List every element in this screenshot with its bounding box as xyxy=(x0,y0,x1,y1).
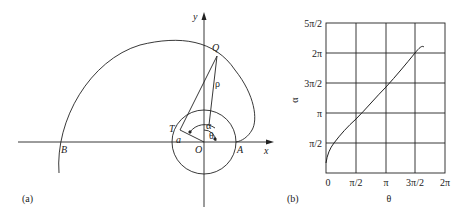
y-axis-title: α xyxy=(289,97,300,103)
ytick-pi2: π/2 xyxy=(309,138,322,149)
ytick-2pi: 2π xyxy=(312,48,322,59)
tangent-line xyxy=(180,56,217,130)
xtick-2pi: 2π xyxy=(440,177,450,188)
figure: y x Q T O A B ρ α θ a (a) 5π/2 2π 3π/2 π… xyxy=(0,0,468,212)
panel-a xyxy=(18,12,274,207)
theta-arc-dot xyxy=(214,138,216,140)
panel-b-label: (b) xyxy=(287,193,299,205)
ytick-5pi2: 5π/2 xyxy=(304,18,322,29)
theta-label: θ xyxy=(209,130,214,141)
y-axis-label: y xyxy=(192,11,198,22)
ytick-pi: π xyxy=(317,108,322,119)
xtick-3pi2: 3π/2 xyxy=(406,177,424,188)
involute-curve xyxy=(59,40,255,173)
alpha-arc-dot xyxy=(189,131,191,133)
panel-b-labels: 5π/2 2π 3π/2 π π/2 0 π/2 π 3π/2 2π θ α (… xyxy=(287,18,450,205)
ytick-3pi2: 3π/2 xyxy=(304,78,322,89)
point-O-label: O xyxy=(195,144,202,155)
point-A-label: A xyxy=(236,144,244,155)
alpha-theta-curve xyxy=(326,46,424,163)
panel-b-grid xyxy=(326,23,445,173)
x-axis-label: x xyxy=(263,145,269,156)
y-axis-arrow-icon xyxy=(202,12,207,20)
xtick-pi2: π/2 xyxy=(350,177,363,188)
point-Q-label: Q xyxy=(212,42,220,53)
rho-label: ρ xyxy=(215,78,220,89)
radius-OT xyxy=(180,130,204,142)
xtick-pi: π xyxy=(383,177,388,188)
panel-a-labels: y x Q T O A B ρ α θ a (a) xyxy=(22,11,269,205)
x-axis-title: θ xyxy=(387,193,392,204)
panel-a-label: (a) xyxy=(22,193,33,205)
point-B-label: B xyxy=(61,144,67,155)
radius-a-label: a xyxy=(176,134,181,145)
rho-line xyxy=(209,56,217,125)
x-axis-arrow-icon xyxy=(266,140,274,145)
plot-frame xyxy=(326,23,445,173)
xtick-0: 0 xyxy=(326,177,331,188)
